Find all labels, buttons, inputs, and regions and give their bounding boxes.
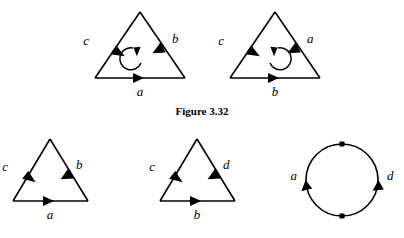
vertex-dot-bottom <box>340 214 345 219</box>
figure-canvas: c b a c a b <box>0 0 404 238</box>
edge-b-arrowhead <box>268 73 279 83</box>
figure-caption: Figure 3.32 <box>176 105 229 117</box>
edge-label-c: c <box>83 33 89 48</box>
edge-label-b: b <box>272 84 279 99</box>
edge-c-line <box>230 12 275 78</box>
edge-b-arrowhead <box>61 167 75 180</box>
edge-c-arrowhead <box>21 170 35 183</box>
edge-c-line <box>13 139 50 201</box>
triangle-top-left: c b a <box>83 12 185 99</box>
edge-d-arrowhead <box>208 167 222 180</box>
arc-d-arrowhead <box>373 180 385 192</box>
arc-a-arrowhead <box>301 180 313 192</box>
edge-b-arrowhead <box>190 196 201 206</box>
edge-label-b: b <box>172 31 179 46</box>
edge-c-line <box>95 12 140 78</box>
edge-label-a: a <box>47 207 54 222</box>
edge-label-d: d <box>223 157 230 172</box>
edge-label-c: c <box>149 159 155 174</box>
edge-label-c: c <box>2 159 8 174</box>
orientation-loop-arrowhead <box>132 46 141 57</box>
circle-outline <box>306 144 378 216</box>
figure-3-32: c b a c a b <box>0 0 404 238</box>
edge-c-arrowhead <box>168 170 182 183</box>
vertex-dot-top <box>340 142 345 147</box>
triangle-bottom-middle: c d b <box>149 139 235 222</box>
triangle-bottom-left: c b a <box>2 139 88 222</box>
edge-a-arrowhead <box>133 73 144 83</box>
edge-label-a: a <box>307 31 314 46</box>
edge-c-line <box>160 139 197 201</box>
edge-a-arrowhead <box>43 196 54 206</box>
edge-c-arrowhead <box>244 44 260 58</box>
triangle-top-right: c a b <box>218 12 320 99</box>
arc-label-d: d <box>387 168 394 183</box>
orientation-loop-arrowhead <box>270 46 279 57</box>
arc-label-a: a <box>291 168 298 183</box>
edge-label-a: a <box>137 84 144 99</box>
edge-label-b: b <box>76 157 83 172</box>
edge-label-c: c <box>218 33 224 48</box>
edge-label-b: b <box>194 207 201 222</box>
circle-bottom-right: a d <box>291 142 395 219</box>
